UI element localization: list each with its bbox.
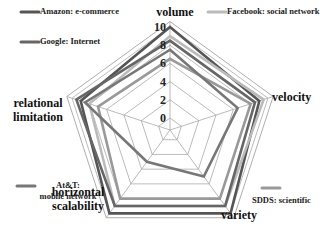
legend-item: At&T:mobile network bbox=[17, 180, 97, 201]
legend-item: Google: Internet bbox=[21, 36, 100, 46]
legend-label: Amazon: e-commerce bbox=[40, 6, 119, 16]
axis-label: variety bbox=[221, 208, 257, 222]
legend-item: SDDS: scientific bbox=[252, 188, 311, 205]
tick-label: 2 bbox=[160, 93, 166, 107]
legend-item: Amazon: e-commerce bbox=[21, 6, 119, 16]
tick-label: 8 bbox=[160, 38, 166, 52]
tick-label: 10 bbox=[154, 20, 166, 34]
legend-label: Google: Internet bbox=[40, 36, 100, 46]
axis-label: scalability bbox=[52, 199, 104, 213]
axis-label: limitation bbox=[13, 110, 63, 124]
radar-chart: 0246810 volumevelocityvarietyhorizontals… bbox=[0, 0, 323, 241]
axis-label: relational bbox=[13, 96, 63, 110]
axis-label: velocity bbox=[272, 90, 311, 104]
tick-label: 6 bbox=[160, 56, 166, 70]
tick-label: 0 bbox=[160, 111, 166, 125]
legend-label: mobile network bbox=[40, 191, 97, 201]
legend-label: Facebook: social network bbox=[227, 6, 320, 16]
legend-item: Facebook: social network bbox=[208, 6, 320, 16]
legend-label: At&T: bbox=[56, 180, 80, 190]
axis-label: volume bbox=[156, 5, 194, 19]
axis-spoke bbox=[170, 130, 234, 218]
axis-spoke bbox=[106, 130, 170, 218]
tick-label: 4 bbox=[160, 75, 166, 89]
legend-label: SDDS: scientific bbox=[252, 195, 311, 205]
